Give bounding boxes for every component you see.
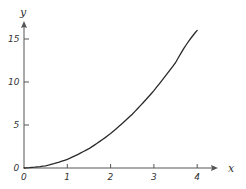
chart: 01234051015 x y — [0, 0, 246, 189]
x-axis-arrow-icon — [211, 165, 218, 171]
y-tick-label: 5 — [14, 120, 20, 130]
x-tick-label: 0 — [21, 172, 27, 182]
x-tick-label: 3 — [151, 172, 157, 182]
y-tick-label: 15 — [8, 34, 20, 44]
axes — [21, 21, 218, 171]
x-tick-label: 1 — [64, 172, 70, 182]
x-tick-label: 2 — [108, 172, 114, 182]
x-tick-label: 4 — [194, 172, 200, 182]
y-tick-label: 0 — [14, 163, 20, 173]
y-axis-arrow-icon — [21, 21, 27, 28]
x-axis-label: x — [228, 162, 235, 175]
y-tick-label: 10 — [8, 77, 20, 87]
ticks: 01234051015 — [8, 34, 200, 182]
data-curve — [24, 30, 197, 168]
y-axis-label: y — [19, 6, 27, 19]
plot-series — [24, 30, 197, 168]
